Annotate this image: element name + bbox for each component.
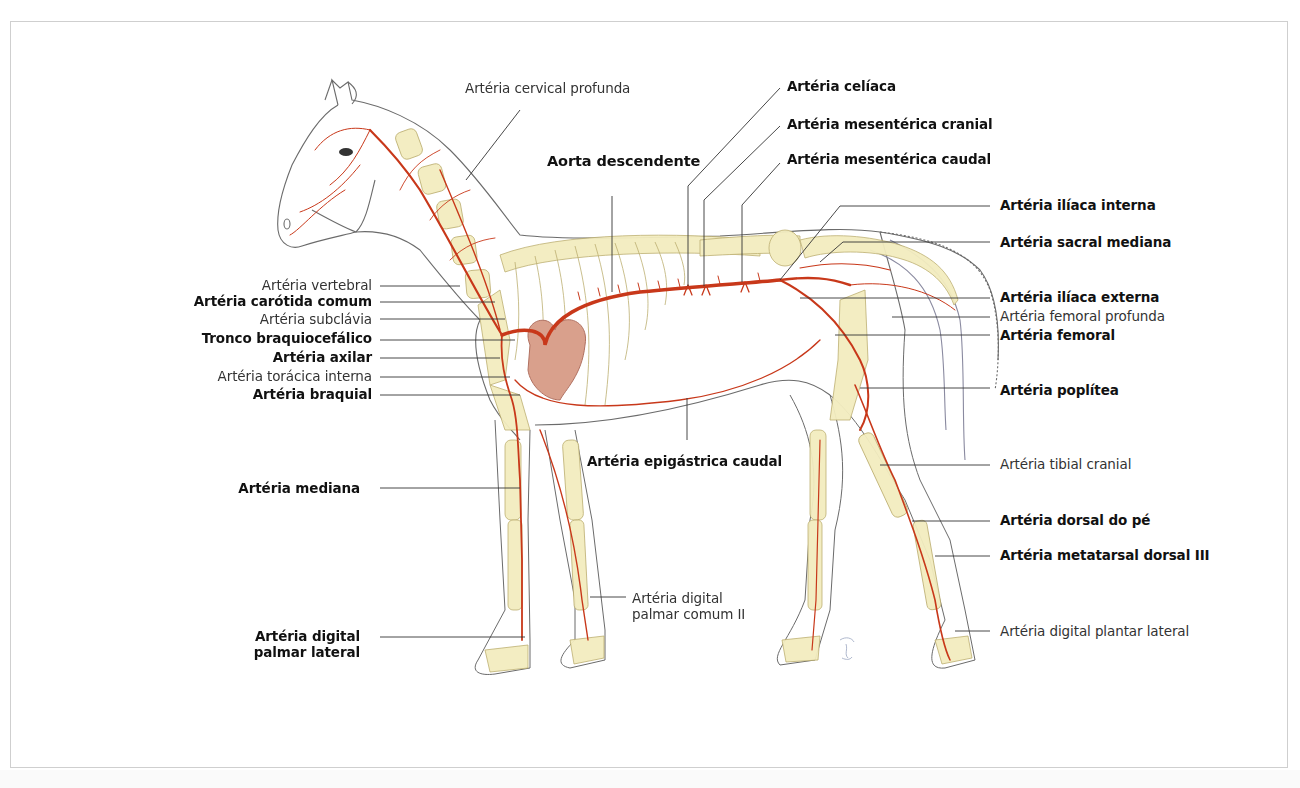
label-arteria-mesenterica-caudal: Artéria mesentérica caudal xyxy=(787,151,991,167)
label-arteria-dorsal-do-pe: Artéria dorsal do pé xyxy=(1000,512,1150,528)
label-line-1: Artéria digital xyxy=(632,590,745,606)
label-aorta-descendente: Aorta descendente xyxy=(547,153,700,169)
label-arteria-iliaca-externa: Artéria ilíaca externa xyxy=(1000,289,1159,305)
label-arteria-digital-palmar-comum-ii: Artéria digital palmar comum II xyxy=(632,590,745,622)
label-arteria-vertebral: Artéria vertebral xyxy=(262,277,372,293)
artist-signature xyxy=(840,638,854,660)
label-arteria-mediana: Artéria mediana xyxy=(238,480,360,496)
label-arteria-toracica-interna: Artéria torácica interna xyxy=(218,368,372,384)
label-arteria-subclavia: Artéria subclávia xyxy=(260,311,372,327)
label-arteria-epigastrica-caudal: Artéria epigástrica caudal xyxy=(587,453,782,469)
label-arteria-cervical-profunda: Artéria cervical profunda xyxy=(465,80,630,96)
label-arteria-tibial-cranial: Artéria tibial cranial xyxy=(1000,456,1131,472)
label-line-2: palmar lateral xyxy=(254,644,360,660)
label-arteria-metatarsal-dorsal-iii: Artéria metatarsal dorsal III xyxy=(1000,547,1210,563)
leader-lines xyxy=(380,88,990,637)
label-arteria-celiaca: Artéria celíaca xyxy=(787,78,896,94)
label-arteria-poplitea: Artéria poplítea xyxy=(1000,382,1119,398)
label-arteria-digital-plantar-lateral: Artéria digital plantar lateral xyxy=(1000,623,1189,639)
label-arteria-iliaca-interna: Artéria ilíaca interna xyxy=(1000,197,1156,213)
label-arteria-sacral-mediana: Artéria sacral mediana xyxy=(1000,234,1171,250)
label-arteria-carotida-comum: Artéria carótida comum xyxy=(194,293,372,309)
label-line-1: Artéria digital xyxy=(254,628,360,644)
label-arteria-digital-palmar-lateral: Artéria digital palmar lateral xyxy=(254,628,360,660)
label-line-2: palmar comum II xyxy=(632,606,745,622)
label-arteria-braquial: Artéria braquial xyxy=(253,386,372,402)
label-arteria-femoral: Artéria femoral xyxy=(1000,327,1115,343)
label-arteria-axilar: Artéria axilar xyxy=(273,349,372,365)
label-tronco-braquiocefalico: Tronco braquiocefálico xyxy=(202,330,372,346)
label-arteria-femoral-profunda: Artéria femoral profunda xyxy=(1000,308,1165,324)
label-arteria-mesenterica-cranial: Artéria mesentérica cranial xyxy=(787,116,993,132)
